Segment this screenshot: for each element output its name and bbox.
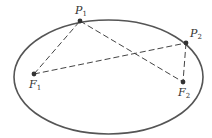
label-f2: F2 [177, 86, 190, 100]
points [32, 19, 189, 85]
point-p2 [184, 41, 189, 46]
point-p1 [78, 19, 83, 24]
ellipse-diagram: P1 P2 F1 F2 [0, 0, 212, 138]
segment-f1-p2 [34, 43, 186, 74]
label-p2: P2 [189, 27, 202, 41]
label-f1: F1 [28, 78, 41, 92]
segment-p2-f2 [183, 43, 186, 82]
label-p1: P1 [74, 4, 87, 18]
point-f1 [32, 72, 37, 77]
point-f2 [181, 80, 186, 85]
segment-p1-f2 [80, 21, 183, 82]
